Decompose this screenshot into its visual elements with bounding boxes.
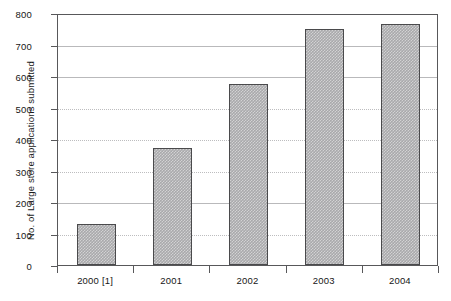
x-axis-tick-mark [286,266,287,273]
y-axis-tick-label: 200 [6,198,32,209]
gridline [58,46,437,47]
bar [153,148,192,265]
y-axis-tick-label: 100 [6,229,32,240]
bar-chart-figure: No. of Large store applications submitte… [0,0,451,301]
x-axis-tick-mark [133,266,134,273]
y-axis-tick-label: 400 [6,135,32,146]
x-axis-tick-mark [438,266,439,273]
y-axis-tick-label: 800 [6,9,32,20]
x-axis-tick-label: 2001 [160,275,182,286]
x-axis-tick-label: 2003 [313,275,335,286]
y-axis-tick-label: 500 [6,103,32,114]
bar [77,224,116,265]
x-axis-tick-label: 2000 [1] [77,275,113,286]
y-axis-tick-label: 600 [6,72,32,83]
y-axis-tick-label: 0 [6,261,32,272]
x-axis-tick-label: 2004 [389,275,411,286]
y-axis-tick-label: 300 [6,166,32,177]
bar [305,29,344,265]
bar [381,24,420,265]
x-axis-tick-mark [209,266,210,273]
bar [229,84,268,265]
x-axis-tick-label: 2002 [237,275,259,286]
gridline [58,77,437,78]
y-axis-tick-label: 700 [6,40,32,51]
x-axis-tick-mark [362,266,363,273]
plot-area [57,14,438,266]
x-axis-tick-mark [57,266,58,273]
